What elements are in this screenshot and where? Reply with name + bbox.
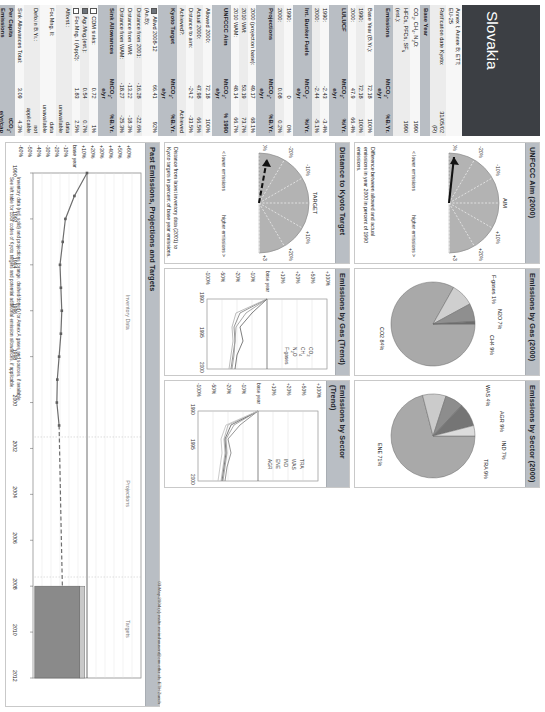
table-row: For.Mng. II:data unavailable (40, 5, 56, 136)
table-section-header: UNFCCC AimMtCO2-e/yr% 1990 (212, 5, 231, 136)
data-point (60, 332, 63, 335)
legend-entry: ENE (275, 459, 280, 469)
row-value-2: -25.3% (117, 102, 126, 136)
row-label: Defo.in B.Yr.: (24, 5, 40, 70)
panel-unfccc-aim: UNFCCC Aim (2000) (354, 142, 540, 264)
panel-title-unfccc-aim: UNFCCC Aim (2000) (525, 143, 539, 263)
country-info-column: Slovakia Annex I; Annex B; ETT; EU-25Rat… (5, 5, 540, 136)
svg-text:-10%: -10% (495, 164, 501, 176)
row-checkbox[interactable] (82, 8, 88, 14)
table-section-header: Per Capita EmissionstCO2-e/yr/cap (0, 5, 15, 136)
row-label: UNFCCC Aim (212, 5, 231, 70)
x-tick-label: 1995 (199, 327, 204, 338)
row-checkbox[interactable] (151, 8, 157, 14)
data-point (59, 264, 62, 267)
row-label: Per Capita Emissions (0, 5, 15, 70)
credit-line: 03-May-2004 (c) malte.meinshausen@env.et… (157, 581, 162, 704)
row-value-1: -13.22 (125, 70, 134, 102)
y-tick-label: -60% (18, 145, 24, 157)
aim-caption: Difference between allowed and actual em… (355, 147, 376, 259)
row-value-2: 0.2% (275, 102, 284, 136)
x-tick-label: 2002 (12, 440, 18, 452)
row-label: Base Year (B.Yr.): (365, 5, 374, 70)
sector-pie-label-ind: IND 7% (501, 441, 507, 460)
row-value-2: 1990 (410, 102, 420, 136)
target-bar (35, 586, 80, 678)
table-row: Annex I; Annex B; ETT; EU-25 (446, 5, 462, 136)
row-value-2 (446, 102, 462, 136)
panel-emissions-by-sector-pie: Emissions by Sector (2000) WAS 4% AGR 9%… (354, 380, 540, 488)
row-value-1: MtCO2-e/yr (374, 70, 393, 102)
svg-text:+10%: +10% (495, 231, 501, 244)
row-label: 2010 WM: (239, 5, 248, 70)
page-title: Slovakia (485, 11, 501, 130)
table-row: Allwd 2008-12 (An.B):66.4192% (142, 5, 158, 136)
legend-entry: TRA (299, 459, 304, 469)
row-value-2: 4.3% (15, 102, 24, 136)
row-value-2: 0.7% (80, 102, 89, 136)
row-value-2: 92% (142, 102, 158, 136)
row-value-2: -5.1% (312, 102, 321, 136)
legend-entry: AGR (267, 459, 272, 469)
row-label: Distance from WM: (125, 5, 134, 70)
legend-entry: WAS (291, 459, 296, 470)
row-value-1: 72.18 (356, 70, 365, 102)
row-label: Sink Allowances Total: (15, 5, 24, 70)
row-label: 2000 (projection base): (248, 5, 257, 70)
row-value-2: data unavailable (56, 102, 72, 136)
sector-pie-label-ene: ENE 71% (377, 443, 383, 466)
row-label: CDM sinks: (89, 5, 98, 70)
table-row: Ratification date Kyoto:31/05/02 (R) (430, 5, 446, 136)
row-value-1: -2.44 (312, 70, 321, 102)
table-section-header: ProjectionsMtCO2-e/yr%B.Yr. (256, 5, 275, 136)
row-checkbox[interactable] (90, 8, 96, 14)
y-tick-label: +100% (325, 271, 330, 286)
row-label: Projections (256, 5, 275, 70)
y-tick-label: -20% (226, 383, 231, 394)
row-label: 2000: (348, 5, 357, 70)
rotated-page-wrapper: Slovakia Annex I; Annex B; ETT; EU-25Rat… (0, 0, 545, 712)
gas-trend-svg (163, 269, 335, 375)
aim-dial-legend: < lower emissions higher emissions > (411, 151, 417, 257)
row-value-1: MtCO2-e/yr (212, 70, 231, 102)
row-value-1: 48.14 (231, 70, 240, 102)
table-row: Base Year (B.Yr.):72.18100% (365, 5, 374, 136)
row-value-2: 68.1% (248, 102, 257, 136)
data-point (58, 355, 61, 358)
svg-text:+10%: +10% (305, 231, 311, 244)
row-label: 1990: (356, 5, 365, 70)
svg-text:-10%: -10% (305, 164, 311, 176)
panel-title-sector-pie: Emissions by Sector (2000) (525, 381, 539, 487)
table-row: Allowed 2000:72.18100% (203, 5, 212, 136)
target-caption: Distance from latest inventory data (200… (165, 147, 179, 259)
row-label: 1990: (284, 5, 293, 70)
row-value-2: 66.7% (231, 102, 240, 136)
row-label: 1990: (320, 5, 329, 70)
sector-pie-label-agr: AGR 9% (499, 411, 505, 432)
row-label: Distance to aim: (186, 5, 195, 70)
y-tick-label: +40% (108, 145, 114, 158)
row-value-2: 73.7% (239, 102, 248, 136)
legend-entry: F-gases (284, 347, 289, 364)
row-value-1: 66.41 (142, 70, 158, 102)
svg-text:-20%: -20% (288, 146, 294, 158)
gas-pie-label-fgases: F-gases 1% (491, 275, 497, 304)
row-checkbox[interactable] (73, 8, 79, 14)
aim-legend-left: < lower emissions (411, 151, 417, 191)
y-tick-label: base year (72, 145, 78, 168)
row-label: Afforst.: (56, 5, 72, 70)
gas-pie-label-co2: CO2 84% (379, 327, 385, 350)
row-value-2: not applicable (24, 102, 40, 136)
data-point (60, 286, 63, 289)
table-row: Actual 2000:47.9866.5% (194, 5, 203, 136)
row-value-1: MtCO2-e/yr (293, 70, 312, 102)
row-value-2: 1% (89, 102, 98, 136)
x-tick-label: 1990 (12, 165, 18, 177)
table-row: 2000:-2.44-5.1% (312, 5, 321, 136)
svg-text:-30%: -30% (262, 145, 268, 152)
row-label: Ratification date Kyoto: (430, 5, 446, 70)
x-tick-label: 1990 (199, 292, 204, 303)
row-label: Emissions (374, 5, 393, 70)
row-value-1: 53.19 (239, 70, 248, 102)
table-row: Defo.in B.Yr.:not applicable (24, 5, 40, 136)
